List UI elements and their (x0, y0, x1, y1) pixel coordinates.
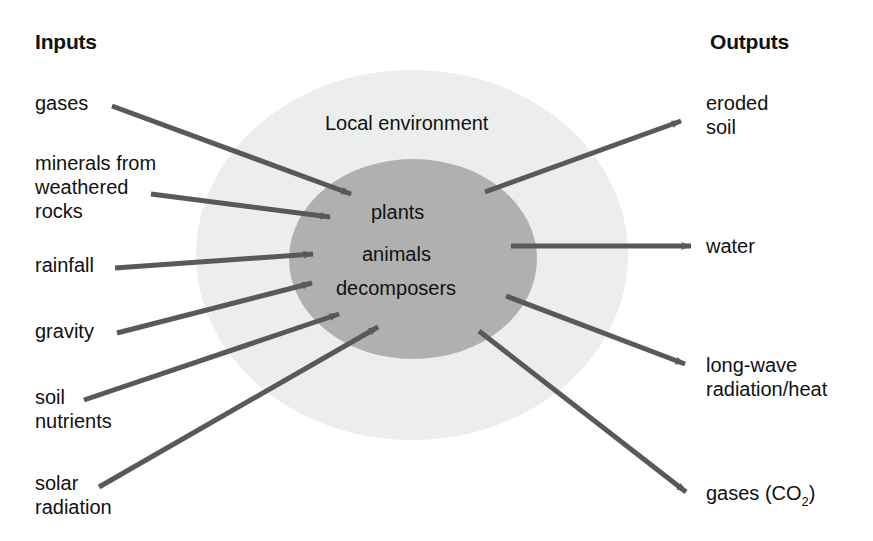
input-label-rainfall: rainfall (35, 254, 94, 276)
ecosystem-flow-diagram: Inputs Outputs Local environment plants … (0, 0, 873, 541)
input-label-gravity: gravity (35, 320, 94, 342)
input-label-gases: gases (35, 92, 88, 114)
inputs-heading: Inputs (35, 30, 97, 53)
input-label-minerals-line2: weathered (34, 176, 128, 198)
output-label-eroded-soil-line1: eroded (706, 92, 768, 114)
output-label-gases-co2-suffix: ) (809, 482, 816, 504)
center-item-animals: animals (362, 243, 431, 265)
output-label-gases-co2-main: gases (CO (706, 482, 802, 504)
input-label-minerals-line1: minerals from (35, 152, 156, 174)
center-item-plants: plants (371, 201, 424, 223)
output-label-long-wave-line2: radiation/heat (706, 378, 828, 400)
output-label-gases-co2-subscript: 2 (802, 494, 809, 509)
output-label-eroded-soil-line2: soil (706, 116, 736, 138)
outputs-heading: Outputs (710, 30, 789, 53)
output-label-gases-co2: gases (CO2) (706, 482, 816, 509)
output-label-water: water (705, 235, 755, 257)
diagram-page: Inputs Outputs Local environment plants … (0, 0, 873, 541)
local-environment-label: Local environment (325, 112, 489, 134)
input-label-soil-nutrients-line1: soil (35, 386, 65, 408)
input-label-solar-radiation-line2: radiation (35, 496, 112, 518)
center-item-decomposers: decomposers (336, 277, 456, 299)
input-label-soil-nutrients-line2: nutrients (35, 410, 112, 432)
output-label-long-wave-line1: long-wave (706, 354, 797, 376)
input-label-solar-radiation-line1: solar (35, 472, 79, 494)
input-label-minerals-line3: rocks (35, 200, 83, 222)
